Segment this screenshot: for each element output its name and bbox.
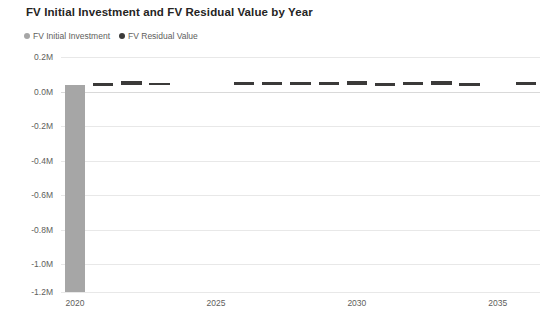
bar-2026-residual-value[interactable] <box>234 82 254 85</box>
bar-2021-residual-value[interactable] <box>93 83 113 86</box>
bar-2027-residual-value[interactable] <box>262 82 282 85</box>
bar-2023-residual-value[interactable] <box>149 83 169 86</box>
bar-2034-residual-value[interactable] <box>459 83 479 86</box>
bar-2022-residual-value[interactable] <box>121 81 141 85</box>
y-axis: 0.2M 0.0M -0.2M -0.4M -0.6M -0.8M -1.0M … <box>0 50 58 292</box>
x-axis: 2020202520302035 <box>61 292 540 314</box>
x-axis-tick-label: 2030 <box>347 298 366 308</box>
chart-title: FV Initial Investment and FV Residual Va… <box>26 6 313 18</box>
legend-label: FV Initial Investment <box>33 31 110 41</box>
bar-2032-residual-value[interactable] <box>403 82 423 85</box>
bar-series-layer <box>61 50 540 292</box>
x-axis-tick-label: 2035 <box>488 298 507 308</box>
y-axis-tick-label: -0.4M <box>31 156 53 166</box>
y-axis-tick-label: -0.6M <box>31 190 53 200</box>
legend-marker-icon <box>24 33 30 39</box>
legend-item-fv-residual-value[interactable]: FV Residual Value <box>119 31 198 41</box>
bar-2036-residual-value[interactable] <box>516 82 536 85</box>
x-axis-tick-label: 2020 <box>66 298 85 308</box>
plot-area <box>61 50 540 292</box>
y-axis-tick-label: 0.2M <box>34 52 53 62</box>
legend-item-fv-initial-investment[interactable]: FV Initial Investment <box>24 31 110 41</box>
legend-label: FV Residual Value <box>128 31 198 41</box>
y-axis-tick-label: -1.0M <box>31 259 53 269</box>
x-axis-tick-label: 2025 <box>207 298 226 308</box>
y-axis-tick-label: -0.8M <box>31 225 53 235</box>
bar-2029-residual-value[interactable] <box>319 82 339 85</box>
chart-container: FV Initial Investment and FV Residual Va… <box>0 0 551 325</box>
chart-legend: FV Initial Investment FV Residual Value <box>24 31 198 41</box>
y-axis-tick-label: 0.0M <box>34 87 53 97</box>
bar-2020-initial-investment[interactable] <box>65 85 85 292</box>
legend-marker-icon <box>119 33 125 39</box>
bar-2033-residual-value[interactable] <box>431 81 451 84</box>
y-axis-tick-label: -0.2M <box>31 121 53 131</box>
bar-2030-residual-value[interactable] <box>347 81 367 85</box>
bar-2031-residual-value[interactable] <box>375 83 395 86</box>
bar-2028-residual-value[interactable] <box>290 82 310 85</box>
y-axis-tick-label: -1.2M <box>31 287 53 297</box>
